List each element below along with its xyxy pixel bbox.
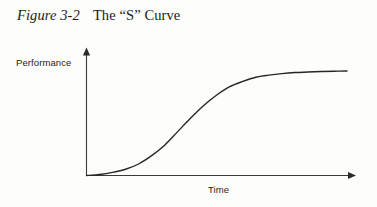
s-curve-line	[87, 71, 348, 176]
chart-plot-area	[0, 0, 377, 207]
x-axis-arrow-icon	[348, 172, 356, 179]
x-axis-label: Time	[208, 184, 229, 195]
figure-container: Figure 3-2The “S” Curve Performance Time	[0, 0, 377, 207]
y-axis-label: Performance	[16, 57, 71, 68]
y-axis-arrow-icon	[83, 48, 90, 56]
